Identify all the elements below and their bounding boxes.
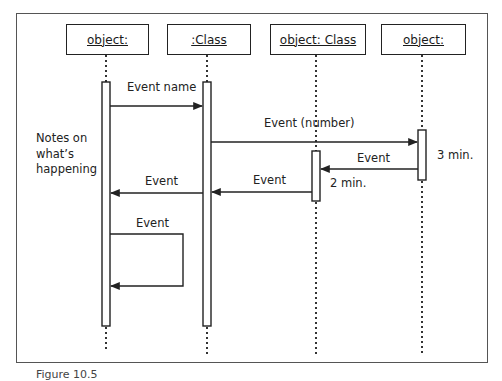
message-label: Event — [145, 174, 178, 188]
figure-caption: Figure 10.5 — [36, 368, 98, 381]
notes-line: happening — [36, 162, 97, 178]
notes-text: Notes on what’s happening — [36, 131, 97, 178]
activation-bar-3 — [312, 151, 320, 201]
self-message-arrow — [110, 234, 183, 286]
message-label: Event — [136, 216, 169, 230]
notes-line: what’s — [36, 147, 97, 163]
duration-label: 2 min. — [330, 176, 366, 190]
activation-bar-4 — [418, 130, 426, 180]
message-label: Event name — [127, 80, 196, 94]
activation-bar-1 — [102, 82, 110, 326]
message-label: Event — [357, 151, 390, 165]
notes-line: Notes on — [36, 131, 97, 147]
message-label: Event (number) — [264, 116, 354, 130]
activation-bar-2 — [203, 82, 211, 326]
message-label: Event — [253, 173, 286, 187]
duration-label: 3 min. — [437, 148, 473, 162]
